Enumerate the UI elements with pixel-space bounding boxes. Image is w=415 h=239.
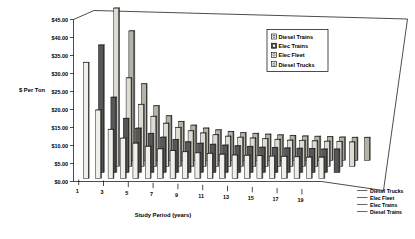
bar xyxy=(220,154,226,178)
bar-front-face xyxy=(282,157,287,179)
y-tick-label: $15.00 xyxy=(52,125,69,131)
bar-chart-3d: $0.00$5.00$10.00$15.00$20.00$25.00$30.00… xyxy=(0,0,415,239)
y-tick-label: $20.00 xyxy=(52,107,69,113)
bar-front-face xyxy=(83,63,88,179)
legend-item-label: Elec Trains xyxy=(279,43,309,49)
depth-axis-label: Diesel Trains xyxy=(370,209,402,215)
bar-front-face xyxy=(319,157,324,178)
depth-axis-label: Diesel Trucks xyxy=(370,188,404,194)
bar-front-face xyxy=(269,156,274,178)
bar-front-face xyxy=(158,149,163,179)
legend-swatch-inner xyxy=(273,35,275,37)
bar xyxy=(334,149,340,173)
bar-front-face xyxy=(170,151,175,179)
x-tick-label: 15 xyxy=(248,195,254,201)
x-tick-label: 9 xyxy=(175,192,178,198)
legend-swatch-inner xyxy=(273,45,275,47)
bar xyxy=(257,155,263,178)
bar-front-face xyxy=(232,155,237,178)
bar-front-face xyxy=(207,154,212,179)
bar xyxy=(232,155,238,179)
legend-item-label: Diesel Trucks xyxy=(279,62,315,68)
back-wall-right-edge xyxy=(384,19,408,191)
bar-front-face xyxy=(145,146,150,178)
x-tick-label: 3 xyxy=(101,189,104,195)
bar-front-face xyxy=(334,149,339,172)
bar-front-face xyxy=(183,152,188,179)
y-tick-label: $10.00 xyxy=(52,143,69,149)
bar xyxy=(121,138,127,179)
depth-axis-label: Elec Fleet xyxy=(370,195,394,201)
bar-front-face xyxy=(307,157,312,178)
bar xyxy=(96,110,102,179)
bar-front-face xyxy=(245,155,250,178)
bar-front-face xyxy=(364,138,369,161)
bar xyxy=(364,137,370,160)
legend-swatch-inner xyxy=(273,63,275,65)
bar xyxy=(133,143,139,179)
bar xyxy=(195,153,201,179)
legend-item-label: Elec Fleet xyxy=(279,52,305,58)
bar-front-face xyxy=(195,153,200,179)
bar-front-face xyxy=(257,156,262,179)
bar-front-face xyxy=(349,142,354,166)
y-axis-title: $ Per Ton xyxy=(19,87,45,93)
bar xyxy=(158,149,164,179)
legend-swatch-inner xyxy=(273,54,275,56)
back-wall-top-edge xyxy=(74,11,408,20)
y-tick-label: $30.00 xyxy=(52,71,69,77)
y-tick-label: $40.00 xyxy=(52,35,69,41)
bar xyxy=(145,146,151,178)
y-tick-label: $45.00 xyxy=(52,17,69,23)
y-tick-label: $5.00 xyxy=(55,161,69,167)
bar-front-face xyxy=(121,138,126,178)
x-tick-label: 5 xyxy=(125,190,128,196)
bar xyxy=(307,157,313,179)
bar xyxy=(170,150,176,178)
y-tick-label: $0.00 xyxy=(55,179,69,185)
y-tick-label: $35.00 xyxy=(52,53,69,59)
bar xyxy=(108,129,114,178)
depth-axis-label: Elec Trains xyxy=(370,202,398,208)
x-axis-title: Study Period (years) xyxy=(135,212,191,218)
x-tick-label: 13 xyxy=(223,194,229,200)
bar-front-face xyxy=(108,130,113,179)
depth-axis-labels: Diesel TrucksElec FleetElec TrainsDiesel… xyxy=(357,188,404,215)
x-axis: 135791113151719 xyxy=(76,180,304,203)
legend-item-label: Diesel Trains xyxy=(279,34,314,40)
bar-front-face xyxy=(294,157,299,179)
bar xyxy=(245,155,251,178)
bar-front-face xyxy=(96,110,101,178)
y-tick-label: $25.00 xyxy=(52,89,69,95)
bar xyxy=(83,62,89,178)
chart-container: $0.00$5.00$10.00$15.00$20.00$25.00$30.00… xyxy=(0,0,415,239)
x-tick-label: 11 xyxy=(198,193,204,199)
y-axis: $0.00$5.00$10.00$15.00$20.00$25.00$30.00… xyxy=(52,17,74,185)
bar xyxy=(319,157,325,179)
bar-front-face xyxy=(133,143,138,178)
x-tick-label: 7 xyxy=(150,191,153,197)
bar xyxy=(183,152,189,179)
legend: Diesel TrainsElec TrainsElec FleetDiesel… xyxy=(267,30,328,72)
bar-front-face xyxy=(220,154,225,178)
x-tick-label: 17 xyxy=(273,196,279,202)
bar xyxy=(269,156,275,179)
bar xyxy=(282,156,288,178)
x-tick-label: 1 xyxy=(76,188,79,194)
x-tick-label: 19 xyxy=(297,197,303,203)
bar xyxy=(294,157,300,179)
bar xyxy=(207,153,213,178)
bar xyxy=(349,142,355,167)
